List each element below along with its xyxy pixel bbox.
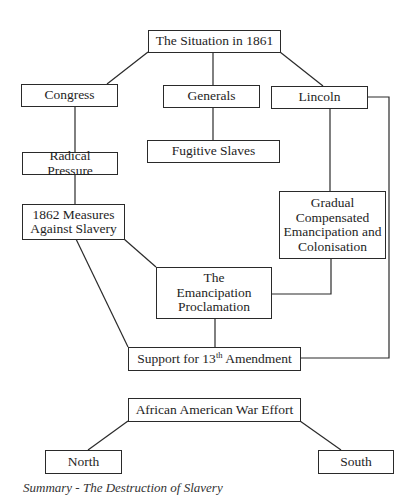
node-radical-pressure: Radical Pressure [22,152,118,175]
node-support-superscript: th [216,349,223,359]
edge-african-north [88,421,128,450]
node-generals: Generals [163,85,260,108]
node-generals-label: Generals [188,89,236,104]
node-african-american-label: African American War Effort [136,403,294,418]
node-emancipation-proclamation: The Emancipation Proclamation [156,267,272,319]
node-south: South [318,450,394,474]
node-situation: The Situation in 1861 [148,30,281,53]
node-gradual-line3: Emancipation and [284,225,382,240]
node-support-text-end: Amendment [223,351,292,366]
node-gradual-line4: Colonisation [298,240,367,255]
node-congress-label: Congress [44,88,94,103]
node-support-13th-amendment: Support for 13th Amendment [128,347,301,371]
node-1862-measures-line1: 1862 Measures [32,208,114,223]
edge-measures-support [76,239,128,347]
node-situation-label: The Situation in 1861 [156,34,273,49]
node-emancipation-line1: The [204,271,225,286]
node-radical-pressure-label: Radical Pressure [25,149,115,178]
node-gradual-line2: Compensated [296,211,370,226]
edge-measures-emancipation [124,239,156,267]
edge-african-south [300,421,341,450]
node-north-label: North [68,455,100,470]
node-1862-measures-line2: Against Slavery [30,222,117,237]
node-support-label: Support for 13th Amendment [137,352,292,367]
node-emancipation-line3: Proclamation [178,300,250,315]
node-1862-measures: 1862 Measures Against Slavery [22,204,125,240]
node-congress: Congress [21,84,118,107]
edge-situation-lincoln [280,52,323,86]
node-fugitive-slaves: Fugitive Slaves [147,140,280,163]
node-fugitive-slaves-label: Fugitive Slaves [172,144,256,159]
node-support-text: Support for 13 [137,351,216,366]
node-african-american-war-effort: African American War Effort [128,398,301,422]
node-lincoln: Lincoln [271,86,368,109]
node-north: North [45,450,122,474]
node-emancipation-line2: Emancipation [177,286,252,301]
edge-situation-congress [107,52,148,84]
edge-gradual-emancipation [271,258,331,294]
node-lincoln-label: Lincoln [299,90,341,105]
node-south-label: South [340,455,372,470]
figure-caption: Summary - The Destruction of Slavery [23,480,223,496]
node-gradual-line1: Gradual [311,196,354,211]
node-gradual-emancipation: Gradual Compensated Emancipation and Col… [279,191,386,259]
